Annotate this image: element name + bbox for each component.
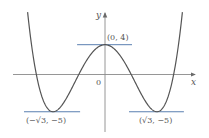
max-point-label: (0, 4)	[107, 33, 129, 42]
tangent-lines	[24, 45, 184, 112]
min-left-label: (−√3, −5)	[26, 116, 66, 125]
y-axis-label: y	[95, 10, 102, 20]
origin-label: 0	[96, 78, 101, 87]
function-graph: y x 0 (0, 4) (−√3, −5) (√3, −5)	[0, 0, 209, 138]
x-axis-label: x	[191, 77, 196, 87]
min-right-label: (√3, −5)	[139, 116, 172, 125]
